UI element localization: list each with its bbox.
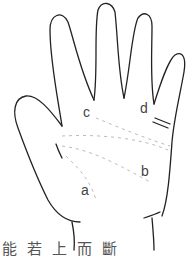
label-d: d bbox=[140, 100, 148, 116]
label-a: a bbox=[81, 182, 89, 198]
palm-figure: c d b a 能若上而斷 bbox=[0, 0, 187, 261]
label-b: b bbox=[141, 163, 149, 179]
caption: 能若上而斷 bbox=[2, 237, 127, 258]
palm-drawing bbox=[0, 0, 187, 261]
label-c: c bbox=[83, 104, 90, 120]
